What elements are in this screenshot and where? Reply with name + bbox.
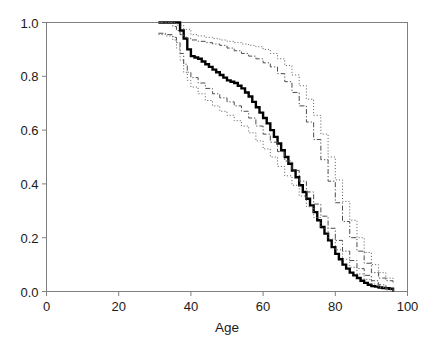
x-tick-label: 60: [256, 299, 270, 314]
x-tick-label: 80: [328, 299, 342, 314]
plot-canvas: [0, 0, 433, 347]
series-upper-outer-band: [158, 23, 393, 281]
series-lower-outer-band: [158, 35, 393, 292]
axes-frame: [47, 23, 408, 292]
y-tick-label: 0.4: [0, 176, 39, 191]
x-tick-label: 0: [43, 299, 50, 314]
series-lower-inner-band: [158, 33, 393, 291]
data-series: [158, 23, 393, 292]
survival-chart-figure: 0.00.20.40.60.81.0 020406080100 Age: [0, 0, 433, 347]
y-tick-label: 0.2: [0, 230, 39, 245]
x-tick-label: 40: [184, 299, 198, 314]
x-axis-title: Age: [215, 320, 239, 335]
series-upper-inner-band: [158, 23, 393, 284]
y-tick-label: 0.0: [0, 284, 39, 299]
axis-ticks: [42, 23, 408, 297]
y-tick-label: 0.6: [0, 123, 39, 138]
x-tick-label: 20: [111, 299, 125, 314]
plot-frame: [47, 23, 408, 292]
x-tick-label: 100: [397, 299, 419, 314]
y-tick-label: 0.8: [0, 69, 39, 84]
y-tick-label: 1.0: [0, 15, 39, 30]
